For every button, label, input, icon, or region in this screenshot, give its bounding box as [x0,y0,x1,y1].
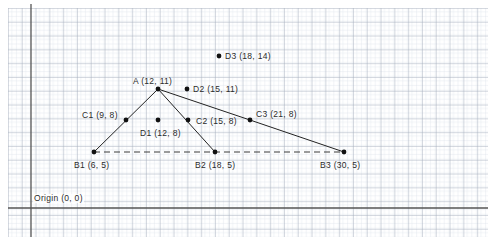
data-point-b1[interactable] [92,150,97,155]
origin-label: Origin (0, 0) [33,194,84,203]
point-label-b1: B1 (6, 5) [74,161,109,170]
data-point-c3[interactable] [248,118,253,123]
point-label-d1: D1 (12, 8) [140,129,181,138]
data-point-b2[interactable] [213,150,218,155]
data-point-d3[interactable] [217,54,222,59]
data-point-d2[interactable] [185,87,190,92]
point-label-b2: B2 (18, 5) [195,161,235,170]
point-label-b3: B3 (30, 5) [320,161,360,170]
data-point-d1[interactable] [156,118,161,123]
point-label-d2: D2 (15, 11) [193,85,238,94]
data-point-b3[interactable] [342,150,347,155]
data-point-c1[interactable] [124,118,129,123]
point-label-c1: C1 (9, 8) [82,111,118,120]
point-label-d3: D3 (18, 14) [225,52,271,61]
data-point-a[interactable] [156,87,161,92]
data-point-c2[interactable] [186,118,191,123]
point-label-c3: C3 (21, 8) [256,110,297,119]
coordinate-diagram-figure: A (12, 11)B1 (6, 5)B2 (18, 5)B3 (30, 5)C… [0,0,488,237]
point-label-a: A (12, 11) [133,77,172,86]
point-label-c2: C2 (15, 8) [196,117,237,126]
segment-C3-B3 [250,120,344,152]
